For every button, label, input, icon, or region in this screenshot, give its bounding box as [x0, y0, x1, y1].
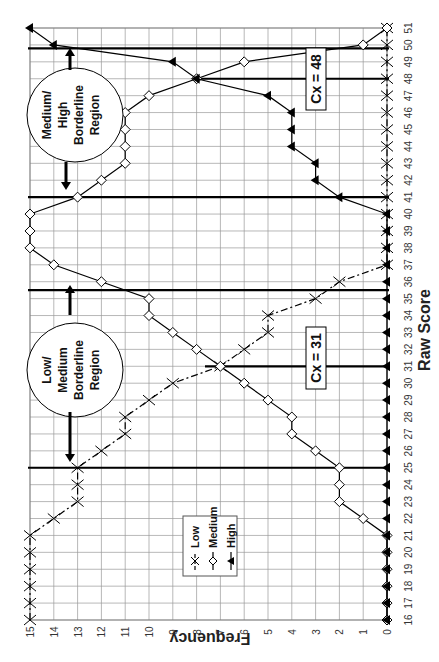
- svg-text:31: 31: [403, 360, 414, 372]
- svg-text:Medium: Medium: [56, 347, 70, 392]
- svg-text:1: 1: [358, 629, 369, 635]
- svg-text:36: 36: [403, 276, 414, 288]
- svg-text:5: 5: [263, 629, 274, 635]
- svg-text:33: 33: [403, 326, 414, 338]
- svg-text:High: High: [225, 523, 237, 548]
- cx-48-label: Cx = 48: [306, 48, 326, 110]
- svg-text:46: 46: [403, 107, 414, 119]
- svg-text:12: 12: [96, 626, 107, 638]
- svg-text:13: 13: [73, 626, 84, 638]
- cx-31-label: Cx = 31: [306, 327, 326, 389]
- svg-text:27: 27: [403, 428, 414, 440]
- svg-text:Low: Low: [189, 526, 201, 548]
- svg-text:Medium: Medium: [207, 506, 219, 548]
- svg-text:Low/: Low/: [40, 356, 54, 384]
- svg-text:35: 35: [403, 293, 414, 305]
- svg-text:30: 30: [403, 377, 414, 389]
- svg-text:34: 34: [403, 310, 414, 322]
- svg-text:39: 39: [403, 225, 414, 237]
- svg-text:Borderline: Borderline: [72, 85, 86, 145]
- svg-text:38: 38: [403, 242, 414, 254]
- svg-text:40: 40: [403, 208, 414, 220]
- svg-text:48: 48: [403, 73, 414, 85]
- svg-text:Region: Region: [88, 95, 102, 136]
- svg-text:29: 29: [403, 394, 414, 406]
- svg-text:49: 49: [403, 56, 414, 68]
- svg-text:0: 0: [382, 629, 393, 635]
- svg-text:51: 51: [403, 22, 414, 34]
- arrow-to-line-25: [65, 412, 75, 462]
- svg-text:22: 22: [403, 513, 414, 525]
- svg-text:44: 44: [403, 140, 414, 152]
- x-axis-title: Raw Score: [416, 289, 433, 371]
- svg-text:14: 14: [49, 626, 60, 638]
- arrow-to-line-41: [61, 162, 71, 190]
- svg-text:15: 15: [25, 626, 36, 638]
- svg-text:Cx = 31: Cx = 31: [308, 333, 324, 383]
- svg-text:45: 45: [403, 123, 414, 135]
- svg-text:26: 26: [403, 445, 414, 457]
- svg-text:16: 16: [403, 614, 414, 626]
- svg-text:20: 20: [403, 546, 414, 558]
- svg-text:47: 47: [403, 90, 414, 102]
- low-medium-borderline-region-callout: Low/MediumBorderlineRegion: [27, 323, 123, 417]
- svg-text:4: 4: [287, 629, 298, 635]
- svg-text:Region: Region: [88, 350, 102, 391]
- frequency-chart: 1617181920212223242526272829303132333435…: [0, 0, 439, 662]
- svg-text:41: 41: [403, 191, 414, 203]
- svg-text:18: 18: [403, 580, 414, 592]
- svg-text:High: High: [56, 102, 70, 129]
- svg-text:32: 32: [403, 343, 414, 355]
- y-axis-title: Frequency: [169, 630, 250, 647]
- legend: LowMediumHigh: [183, 506, 237, 576]
- svg-text:42: 42: [403, 174, 414, 186]
- svg-text:24: 24: [403, 479, 414, 491]
- svg-text:43: 43: [403, 157, 414, 169]
- svg-text:17: 17: [403, 597, 414, 609]
- svg-text:37: 37: [403, 259, 414, 271]
- svg-text:10: 10: [144, 626, 155, 638]
- svg-text:19: 19: [403, 563, 414, 575]
- svg-text:25: 25: [403, 462, 414, 474]
- svg-text:28: 28: [403, 411, 414, 423]
- svg-text:2: 2: [334, 629, 345, 635]
- arrow-to-line-49-8: [65, 48, 75, 70]
- medium-high-borderline-region-callout: Medium/HighBorderlineRegion: [27, 68, 123, 162]
- svg-text:50: 50: [403, 39, 414, 51]
- svg-text:Borderline: Borderline: [72, 340, 86, 400]
- svg-text:23: 23: [403, 496, 414, 508]
- svg-text:Medium/: Medium/: [40, 90, 54, 139]
- svg-text:11: 11: [120, 626, 131, 637]
- svg-text:21: 21: [403, 529, 414, 541]
- svg-text:Cx = 48: Cx = 48: [308, 54, 324, 104]
- svg-text:3: 3: [311, 629, 322, 635]
